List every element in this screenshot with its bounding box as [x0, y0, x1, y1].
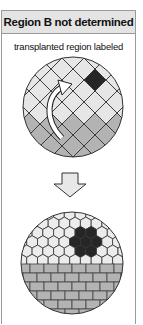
grid-cell	[29, 36, 51, 58]
brick-cell	[86, 282, 100, 291]
hex-cell	[123, 236, 134, 248]
brick-cell	[65, 273, 79, 282]
brick-cell	[128, 300, 142, 309]
brick-cell	[86, 300, 100, 309]
brick-cell	[0, 309, 9, 318]
brick-cell	[37, 273, 51, 282]
hex-cell	[123, 254, 134, 266]
hex-cell	[134, 217, 142, 229]
brick-cell	[44, 300, 58, 309]
grid-cell	[18, 47, 40, 69]
brick-cell	[23, 309, 37, 318]
brick-cell	[16, 300, 30, 309]
brick-cell	[121, 273, 135, 282]
brick-cell	[2, 300, 16, 309]
hex-cell	[140, 245, 143, 257]
brick-cell	[51, 273, 65, 282]
hex-cell	[97, 208, 108, 220]
grid-cell	[0, 113, 18, 135]
hex-cell	[118, 226, 129, 238]
brick-cell	[135, 291, 142, 300]
brick-cell	[30, 264, 44, 273]
hex-cell	[0, 208, 11, 220]
brick-cell	[16, 282, 30, 291]
brick-cell	[121, 309, 135, 318]
brick-cell	[51, 291, 65, 300]
brick-cell	[30, 282, 44, 291]
diagram-canvas	[0, 0, 142, 325]
brick-cell	[9, 309, 23, 318]
top-circle	[0, 36, 142, 179]
brick-cell	[121, 291, 135, 300]
brick-cell	[72, 300, 86, 309]
grid-cell	[84, 157, 106, 179]
hex-cell	[11, 226, 22, 238]
brick-cell	[44, 264, 58, 273]
hex-cell	[0, 226, 11, 238]
hex-cell	[129, 226, 140, 238]
hex-cell	[118, 208, 129, 220]
brick-cell	[9, 273, 23, 282]
brick-cell	[93, 273, 107, 282]
bottom-circle	[0, 208, 142, 318]
hex-cell	[129, 245, 140, 257]
brick-cell	[72, 264, 86, 273]
brick-cell	[44, 282, 58, 291]
brick-cell	[65, 291, 79, 300]
brick-cell	[107, 273, 121, 282]
hex-cell	[129, 208, 140, 220]
grid-cell	[117, 58, 139, 80]
hex-cell	[21, 208, 32, 220]
brick-cell	[135, 273, 142, 282]
hex-cell	[5, 217, 16, 229]
brick-cell	[0, 291, 9, 300]
brick-cell	[93, 309, 107, 318]
brick-cell	[2, 264, 16, 273]
hex-cell	[0, 245, 11, 257]
grid-cell	[117, 124, 139, 146]
brick-cell	[72, 282, 86, 291]
brick-cell	[114, 264, 128, 273]
brick-cell	[23, 273, 37, 282]
grid-cell	[73, 36, 95, 58]
brick-cell	[0, 273, 9, 282]
brick-cell	[114, 300, 128, 309]
grid-cell	[7, 58, 29, 80]
hex-cell	[107, 208, 118, 220]
down-arrow-icon	[54, 173, 86, 197]
hex-cell	[32, 208, 43, 220]
grid-cell	[106, 47, 128, 69]
hex-cell	[140, 208, 143, 220]
grid-cell	[51, 36, 73, 58]
brick-cell	[128, 264, 142, 273]
brick-cell	[58, 264, 72, 273]
brick-cell	[2, 282, 16, 291]
hex-cell	[11, 245, 22, 257]
brick-cell	[37, 291, 51, 300]
brick-cell	[16, 264, 30, 273]
hex-cell	[5, 236, 16, 248]
brick-cell	[37, 309, 51, 318]
brick-cell	[107, 309, 121, 318]
brick-cell	[100, 282, 114, 291]
hex-cell	[134, 254, 142, 266]
brick-cell	[86, 264, 100, 273]
hex-cell	[113, 217, 124, 229]
hex-cell	[134, 236, 142, 248]
grid-cell	[0, 91, 18, 113]
grid-cell	[95, 36, 117, 58]
hex-cell	[5, 254, 16, 266]
brick-cell	[128, 282, 142, 291]
grid-cell	[128, 91, 142, 113]
hex-cell	[11, 208, 22, 220]
hex-cell	[140, 226, 143, 238]
grid-cell	[7, 124, 29, 146]
brick-cell	[9, 291, 23, 300]
grid-cell	[40, 157, 62, 179]
grid-cell	[128, 113, 142, 135]
brick-cell	[79, 273, 93, 282]
brick-cell	[135, 309, 142, 318]
hex-cell	[123, 217, 134, 229]
hex-cell	[16, 217, 27, 229]
brick-cell	[58, 300, 72, 309]
